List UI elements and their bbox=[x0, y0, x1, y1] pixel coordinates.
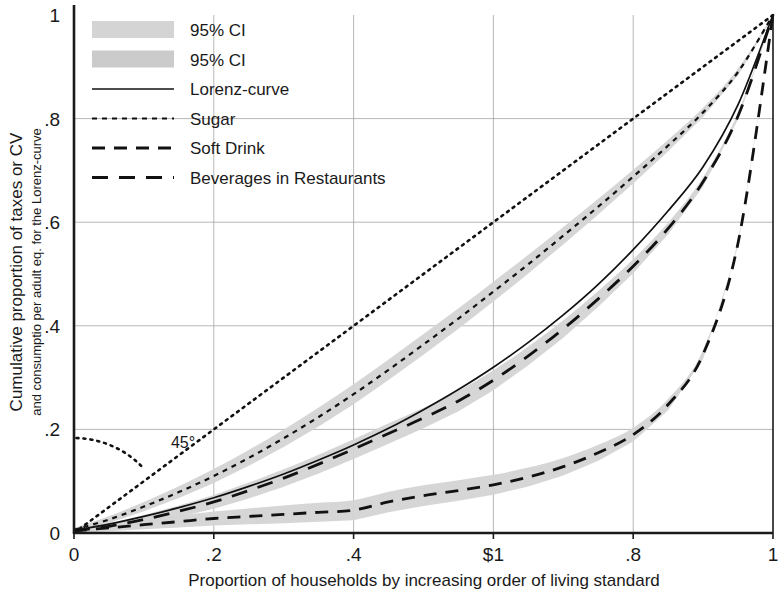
legend-label: 95% CI bbox=[190, 51, 246, 70]
x-tick-label: $1 bbox=[483, 544, 504, 565]
legend-label: Sugar bbox=[190, 110, 236, 129]
annotation-angle-45: 45° bbox=[171, 434, 195, 451]
legend-label: Beverages in Restaurants bbox=[190, 169, 386, 188]
legend-item-95-ci-0[interactable]: 95% CI bbox=[92, 21, 246, 40]
y-tick-label: .8 bbox=[44, 109, 60, 130]
legend-item-95-ci-1[interactable]: 95% CI bbox=[92, 51, 246, 70]
y-tick-label: .6 bbox=[44, 212, 60, 233]
chart-figure: 0.2.4$1.810.2.4.6.81 45° 95% CI95% CILor… bbox=[0, 0, 781, 594]
legend-swatch-ci-band bbox=[92, 21, 174, 38]
y-tick-label: 0 bbox=[49, 523, 60, 544]
x-tick-label: .4 bbox=[346, 544, 362, 565]
x-tick-label: 0 bbox=[69, 544, 80, 565]
x-tick-label: .2 bbox=[206, 544, 222, 565]
legend-label: Lorenz-curve bbox=[190, 80, 289, 99]
legend-swatch-ci-band bbox=[92, 51, 174, 68]
lorenz-curve-chart: 0.2.4$1.810.2.4.6.81 45° 95% CI95% CILor… bbox=[0, 0, 781, 594]
legend-label: 95% CI bbox=[190, 21, 246, 40]
y-axis-label-secondary: and consumptio per adult eq. for the Lor… bbox=[29, 128, 44, 416]
y-tick-label: 1 bbox=[49, 5, 60, 26]
y-axis-label-primary: Cumulative proportion of taxes or CV bbox=[7, 132, 26, 411]
y-tick-label: .2 bbox=[44, 419, 60, 440]
x-tick-label: .8 bbox=[625, 544, 641, 565]
x-tick-label: 1 bbox=[768, 544, 779, 565]
y-tick-label: .4 bbox=[44, 316, 60, 337]
legend-label: Soft Drink bbox=[190, 139, 265, 158]
x-axis-label: Proportion of households by increasing o… bbox=[188, 571, 660, 590]
